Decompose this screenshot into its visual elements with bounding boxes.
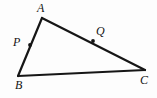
point-label-p: P: [13, 36, 20, 48]
geometry-figure: A B C P Q: [0, 0, 157, 98]
segment-ac: [42, 18, 145, 70]
segment-bc: [18, 70, 145, 76]
triangle-diagram-svg: [0, 0, 157, 98]
point-marker-q: [91, 39, 95, 43]
point-label-q: Q: [96, 25, 105, 37]
vertex-label-c: C: [140, 74, 148, 86]
point-marker-p: [28, 43, 32, 47]
vertex-label-a: A: [37, 2, 44, 14]
segment-ab: [18, 18, 42, 76]
vertex-label-b: B: [15, 79, 22, 91]
